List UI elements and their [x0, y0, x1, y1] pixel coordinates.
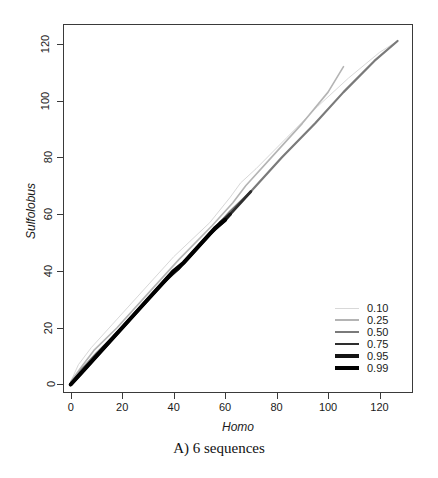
- y-tick-label: 20: [0, 322, 54, 334]
- x-tick-label: 80: [257, 401, 297, 413]
- figure-caption: A) 6 sequences: [0, 440, 438, 457]
- legend-swatch: [334, 331, 360, 333]
- x-tick-mark: [174, 393, 175, 399]
- x-tick-mark: [225, 393, 226, 399]
- legend-item: 0.10: [334, 302, 414, 314]
- x-tick-label: 0: [51, 401, 91, 413]
- legend-item: 0.99: [334, 362, 414, 374]
- x-tick-mark: [71, 393, 72, 399]
- legend-item: 0.50: [334, 326, 414, 338]
- legend-line: [335, 319, 359, 321]
- legend-item: 0.75: [334, 338, 414, 350]
- y-tick-mark: [57, 271, 63, 272]
- legend-item: 0.95: [334, 350, 414, 362]
- y-tick-label: 120: [0, 38, 54, 50]
- y-tick-mark: [57, 44, 63, 45]
- legend-label: 0.99: [360, 362, 388, 374]
- legend-label: 0.75: [360, 338, 388, 350]
- legend-swatch: [334, 354, 360, 357]
- x-tick-label: 120: [360, 401, 400, 413]
- legend-line: [335, 366, 359, 370]
- y-tick-mark: [57, 384, 63, 385]
- legend-line: [335, 331, 359, 333]
- legend-label: 0.10: [360, 302, 388, 314]
- y-axis-title: Sulfolobus: [24, 111, 38, 311]
- legend-line: [335, 354, 359, 357]
- legend-swatch: [334, 343, 360, 346]
- series-line: [71, 67, 344, 382]
- legend-swatch: [334, 319, 360, 321]
- legend-label: 0.25: [360, 314, 388, 326]
- figure-container: 020406080100120020406080100120 Homo Sulf…: [0, 0, 438, 478]
- y-tick-label: 0: [0, 378, 54, 390]
- legend-line: [335, 343, 359, 346]
- legend-swatch: [334, 308, 360, 309]
- legend-line: [335, 308, 359, 309]
- x-axis-title: Homo: [63, 420, 413, 434]
- y-tick-mark: [57, 214, 63, 215]
- y-tick-mark: [57, 328, 63, 329]
- x-tick-label: 40: [154, 401, 194, 413]
- x-tick-label: 100: [308, 401, 348, 413]
- legend-label: 0.50: [360, 326, 388, 338]
- y-tick-mark: [57, 101, 63, 102]
- x-tick-label: 60: [205, 401, 245, 413]
- series-line: [71, 220, 225, 385]
- x-tick-mark: [328, 393, 329, 399]
- legend-label: 0.95: [360, 350, 388, 362]
- legend-item: 0.25: [334, 314, 414, 326]
- y-tick-mark: [57, 157, 63, 158]
- x-tick-label: 20: [102, 401, 142, 413]
- legend-swatch: [334, 366, 360, 370]
- y-tick-label: 100: [0, 95, 54, 107]
- legend: 0.100.250.500.750.950.99: [334, 302, 414, 374]
- x-tick-mark: [122, 393, 123, 399]
- x-tick-mark: [277, 393, 278, 399]
- x-tick-mark: [380, 393, 381, 399]
